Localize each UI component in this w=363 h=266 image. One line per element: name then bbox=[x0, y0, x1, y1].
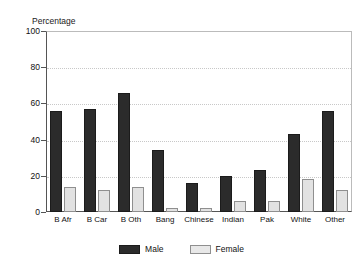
legend-swatch-icon bbox=[119, 245, 140, 254]
bar-female bbox=[302, 179, 315, 212]
y-tick-label-100: 100 bbox=[14, 27, 40, 36]
bar-female bbox=[268, 201, 281, 212]
y-tick-label-0: 0 bbox=[14, 208, 40, 217]
bar-male bbox=[322, 111, 335, 212]
bar-female bbox=[234, 201, 247, 212]
y-tick-label-20: 20 bbox=[14, 172, 40, 181]
y-tick-label-80: 80 bbox=[14, 63, 40, 72]
bar-group bbox=[80, 31, 114, 212]
legend-item-male[interactable]: Male bbox=[119, 244, 163, 254]
bar-group bbox=[46, 31, 80, 212]
x-tick-label: Pak bbox=[250, 215, 284, 225]
bar-female bbox=[200, 208, 213, 212]
chart-legend: MaleFemale bbox=[0, 242, 363, 256]
bar-chart: Percentage 020406080100 B AfrB CarB OthB… bbox=[0, 0, 363, 266]
legend-label: Female bbox=[216, 244, 244, 254]
bar-female bbox=[166, 208, 179, 212]
x-tick-label: Indian bbox=[216, 215, 250, 225]
bar-male bbox=[254, 170, 267, 212]
bar-male bbox=[84, 109, 97, 212]
x-tick-label: B Car bbox=[80, 215, 114, 225]
bar-male bbox=[152, 150, 165, 212]
legend-label: Male bbox=[145, 244, 163, 254]
bars-layer bbox=[46, 31, 352, 212]
x-tick-label: B Oth bbox=[114, 215, 148, 225]
x-tick-label: B Afr bbox=[46, 215, 80, 225]
bar-male bbox=[118, 93, 131, 212]
bar-female bbox=[64, 187, 77, 212]
clipped-title-remnant bbox=[42, 0, 272, 4]
bar-male bbox=[288, 134, 301, 212]
x-tick-label: Other bbox=[318, 215, 352, 225]
y-tick-label-60: 60 bbox=[14, 99, 40, 108]
y-tick-label-40: 40 bbox=[14, 136, 40, 145]
x-tick-label: Bang bbox=[148, 215, 182, 225]
bar-group bbox=[182, 31, 216, 212]
legend-item-female[interactable]: Female bbox=[190, 244, 244, 254]
x-tick-label: Chinese bbox=[182, 215, 216, 225]
x-axis-labels: B AfrB CarB OthBangChineseIndianPakWhite… bbox=[46, 215, 352, 227]
y-axis-title: Percentage bbox=[32, 16, 75, 26]
bar-group bbox=[250, 31, 284, 212]
bar-female bbox=[336, 190, 349, 212]
bar-male bbox=[220, 176, 233, 212]
bar-male bbox=[50, 111, 63, 212]
x-tick-label: White bbox=[284, 215, 318, 225]
bar-group bbox=[148, 31, 182, 212]
bar-female bbox=[98, 190, 111, 212]
y-tick-mark-0 bbox=[41, 212, 46, 213]
legend-swatch-icon bbox=[190, 245, 211, 254]
bar-male bbox=[186, 183, 199, 212]
bar-group bbox=[284, 31, 318, 212]
bar-group bbox=[318, 31, 352, 212]
bar-female bbox=[132, 187, 145, 212]
bar-group bbox=[114, 31, 148, 212]
bar-group bbox=[216, 31, 250, 212]
